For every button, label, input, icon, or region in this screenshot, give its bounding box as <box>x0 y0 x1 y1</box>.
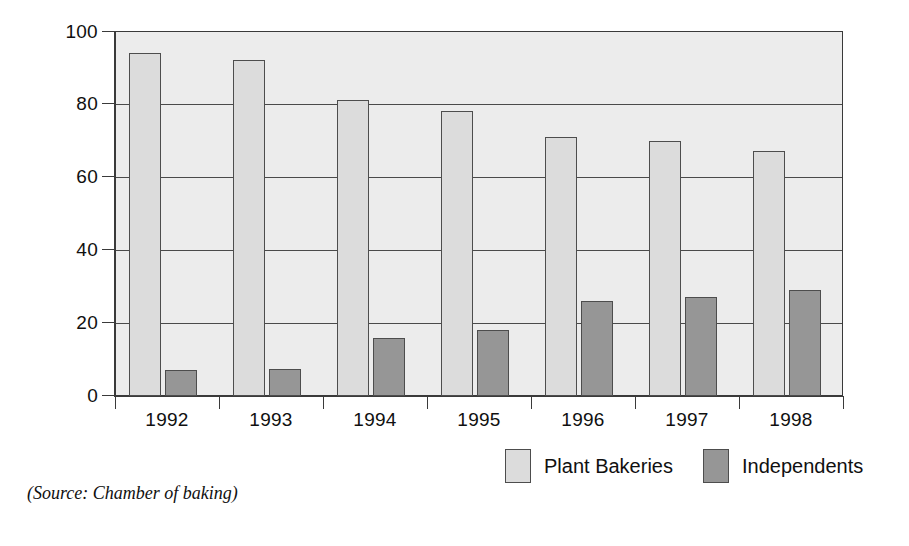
bar-plant-bakeries-1992 <box>129 53 161 396</box>
x-tick-2 <box>323 396 324 409</box>
bar-chart-figure: 100 80 60 40 20 0 1992 1993 1994 1995 19… <box>0 0 909 546</box>
y-tick-80 <box>102 103 115 104</box>
x-tick-6 <box>739 396 740 409</box>
y-tick-60 <box>102 176 115 177</box>
legend-item-independents: Independents <box>703 449 863 483</box>
bar-plant-bakeries-1995 <box>441 111 473 396</box>
y-axis-label-100: 100 <box>44 22 98 41</box>
bar-independents-1998 <box>789 290 821 396</box>
x-axis-label-1997: 1997 <box>635 409 739 431</box>
y-axis-line <box>114 31 115 397</box>
gridline-60 <box>116 177 842 178</box>
legend-swatch-independents <box>703 449 729 483</box>
x-tick-end <box>843 396 844 409</box>
x-tick-start <box>115 396 116 409</box>
bar-plant-bakeries-1998 <box>753 151 785 396</box>
y-tick-20 <box>102 322 115 323</box>
y-axis-label-0: 0 <box>44 386 98 405</box>
source-note: (Source: Chamber of baking) <box>27 483 238 503</box>
y-axis-label-40: 40 <box>44 240 98 259</box>
gridline-20 <box>116 323 842 324</box>
x-axis-label-1998: 1998 <box>739 409 843 431</box>
y-tick-40 <box>102 249 115 250</box>
bar-plant-bakeries-1994 <box>337 100 369 396</box>
legend-label-plant-bakeries: Plant Bakeries <box>544 456 673 476</box>
x-axis-label-1995: 1995 <box>427 409 531 431</box>
y-axis-labels: 100 80 60 40 20 0 <box>34 0 98 546</box>
x-tick-4 <box>531 396 532 409</box>
bar-independents-1993 <box>269 369 301 396</box>
bar-plant-bakeries-1997 <box>649 141 681 397</box>
legend-label-independents: Independents <box>742 456 863 476</box>
x-tick-3 <box>427 396 428 409</box>
bar-independents-1997 <box>685 297 717 396</box>
x-axis-label-1993: 1993 <box>219 409 323 431</box>
x-tick-5 <box>635 396 636 409</box>
bar-independents-1995 <box>477 330 509 396</box>
bar-independents-1994 <box>373 338 405 396</box>
x-axis-label-1996: 1996 <box>531 409 635 431</box>
gridline-40 <box>116 250 842 251</box>
x-axis-label-1994: 1994 <box>323 409 427 431</box>
y-tick-100 <box>102 31 115 32</box>
bar-plant-bakeries-1996 <box>545 137 577 396</box>
bar-independents-1996 <box>581 301 613 396</box>
y-axis-label-20: 20 <box>44 313 98 332</box>
x-axis-label-1992: 1992 <box>115 409 219 431</box>
bar-independents-1992 <box>165 370 197 396</box>
x-axis-line <box>114 396 844 397</box>
chart-legend: Plant Bakeries Independents <box>505 449 863 483</box>
legend-item-plant-bakeries: Plant Bakeries <box>505 449 673 483</box>
gridline-80 <box>116 104 842 105</box>
bar-plant-bakeries-1993 <box>233 60 265 396</box>
y-axis-label-80: 80 <box>44 94 98 113</box>
legend-swatch-plant-bakeries <box>505 449 531 483</box>
y-axis-label-60: 60 <box>44 167 98 186</box>
x-tick-1 <box>219 396 220 409</box>
